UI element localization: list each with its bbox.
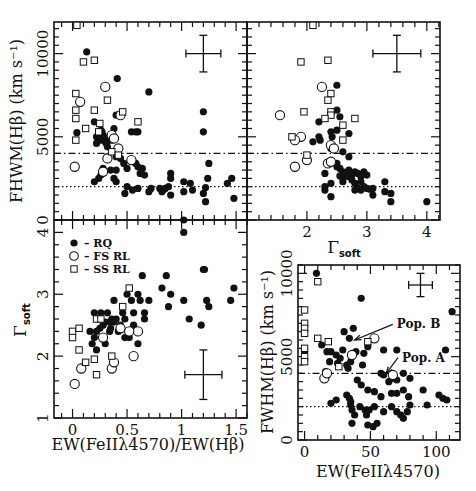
data-point — [83, 48, 90, 55]
annotation-label: Pop. B — [397, 317, 441, 331]
data-point — [82, 125, 88, 131]
data-point — [309, 138, 316, 145]
data-point — [126, 285, 132, 291]
legend-marker-filled-circle-icon — [70, 239, 77, 246]
data-point — [145, 297, 152, 304]
x-axis-title-ew-ratio: EW(FeIIλ4570)/EW(Hβ) — [51, 435, 244, 454]
data-point — [141, 171, 148, 178]
data-point — [161, 186, 168, 193]
data-point — [70, 162, 79, 171]
data-point — [93, 346, 100, 353]
data-point — [180, 297, 187, 304]
x-axis-title-gamma-soft: Γsoft — [327, 237, 361, 259]
data-point — [133, 327, 142, 336]
data-point — [301, 358, 307, 364]
data-point — [380, 408, 387, 415]
data-point — [167, 191, 174, 198]
data-point — [134, 185, 141, 192]
data-point — [97, 120, 103, 126]
data-point — [104, 309, 111, 316]
data-point — [364, 386, 371, 393]
data-point — [198, 322, 205, 329]
data-point — [380, 346, 387, 353]
data-point — [109, 353, 115, 359]
data-point — [344, 365, 351, 372]
data-point — [147, 185, 154, 192]
data-point — [340, 137, 346, 143]
data-point — [89, 340, 96, 347]
y-tick-label: 4 — [34, 228, 52, 238]
data-point — [348, 420, 355, 427]
data-point — [333, 82, 340, 89]
data-point — [336, 113, 343, 120]
x-tick-label: 3 — [362, 223, 372, 241]
y-tick-label: 1 — [34, 413, 52, 423]
data-point — [423, 198, 430, 205]
y-tick-label: 10000 — [34, 30, 52, 78]
data-point — [275, 111, 284, 120]
legend-marker-open-square-icon — [71, 266, 77, 272]
data-point — [318, 341, 325, 348]
data-point — [333, 396, 340, 403]
data-point — [369, 185, 376, 192]
data-point — [109, 149, 115, 155]
data-point — [110, 318, 117, 325]
error-bar — [409, 273, 433, 296]
data-point — [73, 107, 79, 113]
data-point — [119, 109, 125, 115]
data-point — [371, 388, 378, 395]
data-point — [73, 137, 79, 143]
data-point — [321, 186, 328, 193]
data-point — [420, 386, 427, 393]
annotation: Pop. B — [355, 317, 441, 340]
data-point — [301, 345, 307, 351]
data-point — [91, 107, 97, 113]
data-point — [180, 178, 187, 185]
data-point — [448, 308, 455, 315]
y-tick-label: 2 — [34, 351, 52, 361]
data-point — [345, 153, 352, 160]
axes-frame — [247, 22, 440, 220]
data-point — [406, 375, 413, 382]
data-point — [158, 284, 165, 291]
data-point — [360, 350, 367, 357]
data-point — [141, 309, 148, 316]
data-point — [346, 335, 353, 342]
y-tick-label: 3 — [34, 289, 52, 299]
data-point — [387, 198, 394, 205]
data-point — [340, 122, 346, 128]
data-point — [339, 346, 346, 353]
data-point — [230, 195, 237, 202]
data-point — [393, 346, 400, 353]
data-point — [404, 408, 411, 415]
data-point — [336, 172, 343, 179]
data-point — [141, 315, 148, 322]
data-point — [113, 166, 120, 173]
data-point — [351, 411, 358, 418]
data-point — [317, 137, 324, 144]
series-rq — [73, 48, 237, 223]
data-point — [301, 109, 307, 115]
data-point — [125, 327, 134, 336]
data-point — [358, 381, 365, 388]
data-point — [98, 167, 107, 176]
data-point — [322, 369, 331, 378]
data-point — [74, 22, 80, 28]
y-tick-label: 0 — [278, 435, 296, 445]
data-point — [310, 22, 316, 28]
y-tick-label: 5000 — [34, 118, 52, 156]
data-point — [134, 128, 141, 135]
data-point — [328, 90, 334, 96]
data-point — [365, 338, 371, 344]
legend-label: – SS RL — [84, 263, 130, 276]
data-point — [98, 316, 104, 322]
data-point — [317, 82, 326, 91]
data-point — [134, 340, 141, 347]
y-tick-label: 10000 — [278, 249, 296, 297]
data-point — [119, 303, 125, 309]
data-point — [205, 303, 212, 310]
data-point — [91, 334, 98, 341]
data-point — [337, 355, 344, 362]
data-point — [371, 403, 378, 410]
error-bar — [186, 35, 221, 72]
